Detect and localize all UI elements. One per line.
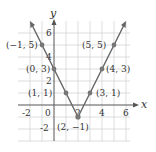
point-0-3 [52,67,57,72]
point-4-3 [100,67,105,72]
tick-x-minus-2: -2 [22,108,31,118]
label-5-5: (5, 5) [82,40,106,50]
label-1-1: (1, 1) [28,88,52,98]
tick-x-6: 6 [123,108,129,118]
label-neg1-5: (−1, 5) [6,40,38,50]
point-1-1 [64,91,69,96]
y-axis-label: y [49,7,57,20]
label-2-neg1: (2, −1) [57,122,89,132]
tick-y-6: 6 [46,28,52,38]
x-axis-label: x [141,98,148,111]
tick-x-4: 4 [99,108,105,118]
label-3-1: (3, 1) [96,88,120,98]
graph: x y -2 0 2 4 6 -2 2 4 6 (−1, 5) (0, 3) (… [0,0,156,152]
point-3-1 [88,91,93,96]
x-axis-arrow-icon [133,103,139,108]
tick-y-2: 2 [46,76,52,86]
point-2-neg1 [75,114,80,119]
point-5-5 [112,43,117,48]
tick-x-0: 0 [45,108,51,118]
point-neg1-5 [40,43,45,48]
point-labels: (−1, 5) (0, 3) (1, 1) (2, −1) (3, 1) (4,… [6,40,130,132]
label-0-3: (0, 3) [26,64,50,74]
tick-y-minus-2: -2 [40,123,49,133]
label-4-3: (4, 3) [106,64,130,74]
